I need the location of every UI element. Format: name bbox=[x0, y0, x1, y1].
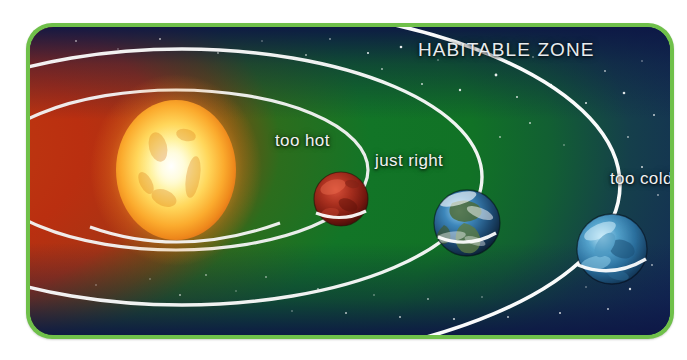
figure-frame: HABITABLE ZONE too hot just right too co… bbox=[26, 23, 674, 339]
figure-canvas: HABITABLE ZONE too hot just right too co… bbox=[0, 0, 687, 360]
planet-too-cold bbox=[577, 214, 647, 284]
habitable-zone-illustration bbox=[30, 27, 670, 335]
sun bbox=[90, 74, 262, 266]
scene-viewport: HABITABLE ZONE too hot just right too co… bbox=[30, 27, 670, 335]
